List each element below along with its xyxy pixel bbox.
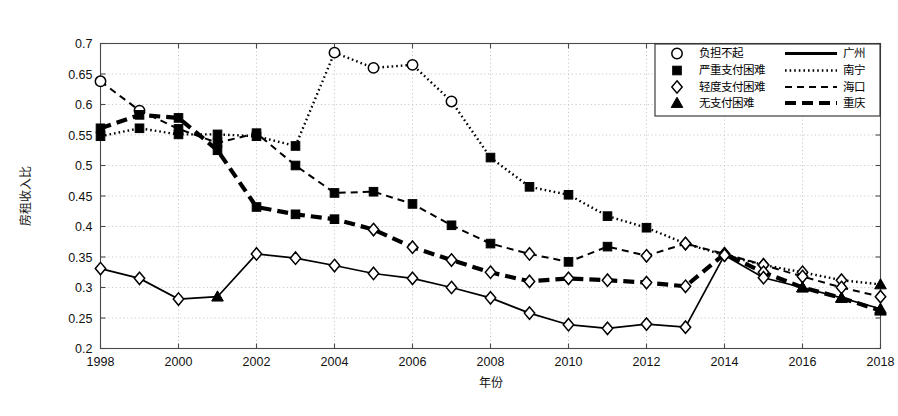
diamond-marker xyxy=(563,272,573,284)
diamond-marker xyxy=(602,274,612,286)
x-tick-label: 1998 xyxy=(87,355,115,369)
x-tick-label: 2012 xyxy=(633,355,661,369)
square-marker xyxy=(486,153,495,162)
diamond-marker xyxy=(485,266,495,278)
square-marker xyxy=(174,114,183,123)
diamond-marker xyxy=(446,281,456,293)
diamond-marker xyxy=(875,290,885,302)
diamond-marker xyxy=(680,237,690,249)
diamond-marker xyxy=(329,259,339,271)
square-marker xyxy=(213,130,222,139)
diamond-marker xyxy=(446,254,456,266)
x-tick-label: 2010 xyxy=(555,355,583,369)
square-marker xyxy=(291,161,300,170)
diamond-marker xyxy=(641,250,651,262)
diamond-marker xyxy=(407,241,417,253)
circle-marker xyxy=(407,60,417,70)
x-tick-label: 2016 xyxy=(789,355,817,369)
diamond-marker xyxy=(563,319,573,331)
y-tick-label: 0.65 xyxy=(68,68,92,82)
square-marker xyxy=(213,146,222,155)
diamond-marker xyxy=(524,248,534,260)
y-tick-label: 0.3 xyxy=(75,281,92,295)
square-marker xyxy=(330,215,339,224)
diamond-marker xyxy=(602,322,612,334)
square-marker xyxy=(564,190,573,199)
x-axis-label: 年份 xyxy=(479,376,503,390)
square-marker xyxy=(96,132,105,141)
diamond-marker xyxy=(368,267,378,279)
square-marker xyxy=(291,142,300,151)
diamond-marker xyxy=(173,293,183,305)
x-tick-label: 2006 xyxy=(399,355,427,369)
circle-marker xyxy=(368,63,378,73)
square-marker xyxy=(252,129,261,138)
square-marker xyxy=(447,221,456,230)
circle-marker xyxy=(329,47,339,57)
square-marker xyxy=(673,66,682,75)
square-marker xyxy=(174,125,183,134)
y-tick-label: 0.5 xyxy=(75,159,92,173)
y-tick-label: 0.35 xyxy=(68,251,92,265)
square-marker xyxy=(486,239,495,248)
diamond-marker xyxy=(368,223,378,235)
square-marker xyxy=(330,189,339,198)
x-tick-label: 2004 xyxy=(321,355,349,369)
diamond-marker xyxy=(641,318,651,330)
x-tick-label: 2014 xyxy=(711,355,739,369)
x-tick-label: 2002 xyxy=(243,355,271,369)
chart-canvas: 0.20.250.30.350.40.450.50.550.60.650.719… xyxy=(0,0,898,416)
square-marker xyxy=(603,212,612,221)
legend-marker-label: 负担不起 xyxy=(699,46,744,59)
diamond-marker xyxy=(524,307,534,319)
square-marker xyxy=(96,124,105,133)
legend-line-label: 重庆 xyxy=(843,96,866,109)
y-tick-label: 0.4 xyxy=(75,220,92,234)
x-tick-label: 2000 xyxy=(165,355,193,369)
square-marker xyxy=(252,203,261,212)
legend-line-label: 海口 xyxy=(843,80,865,93)
square-marker xyxy=(291,210,300,219)
diamond-marker xyxy=(485,292,495,304)
y-tick-label: 0.55 xyxy=(68,129,92,143)
legend-marker-label: 轻度支付困难 xyxy=(699,80,765,93)
square-marker xyxy=(135,111,144,120)
y-tick-label: 0.7 xyxy=(75,37,92,51)
square-marker xyxy=(564,258,573,267)
y-tick-label: 0.6 xyxy=(75,98,92,112)
diamond-marker xyxy=(290,252,300,264)
circle-marker xyxy=(95,76,105,86)
x-tick-label: 2018 xyxy=(867,355,895,369)
legend-marker-label: 无支付困难 xyxy=(699,97,754,109)
y-tick-label: 0.45 xyxy=(68,190,92,204)
circle-marker xyxy=(446,96,456,106)
x-tick-label: 2008 xyxy=(477,355,505,369)
square-marker xyxy=(603,242,612,251)
square-marker xyxy=(408,200,417,209)
triangle-marker xyxy=(875,279,887,289)
diamond-marker xyxy=(134,272,144,284)
legend-line-label: 南宁 xyxy=(843,63,865,76)
legend-line-label: 广州 xyxy=(843,47,865,59)
diamond-marker xyxy=(407,272,417,284)
square-marker xyxy=(135,124,144,133)
circle-marker xyxy=(672,48,682,58)
legend-marker-label: 严重支付困难 xyxy=(699,63,765,76)
diamond-marker xyxy=(95,262,105,274)
square-marker xyxy=(369,187,378,196)
chart-figure: 0.20.250.30.350.40.450.50.550.60.650.719… xyxy=(0,0,898,416)
diamond-marker xyxy=(524,275,534,287)
diamond-marker xyxy=(680,321,690,333)
y-tick-label: 0.25 xyxy=(68,312,92,326)
square-marker xyxy=(642,223,651,232)
square-marker xyxy=(525,183,534,192)
diamond-marker xyxy=(641,276,651,288)
y-axis-label: 房租收入比 xyxy=(18,166,33,226)
